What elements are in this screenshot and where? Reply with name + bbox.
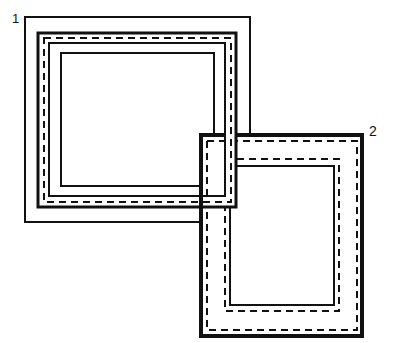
frame-2-opening xyxy=(230,166,334,305)
frames-diagram xyxy=(0,0,402,343)
frame-1-opening xyxy=(61,53,214,186)
frame-1-label: 1 xyxy=(12,12,19,25)
frame-2-overlap-panel xyxy=(201,135,225,196)
frame-2-label: 2 xyxy=(369,124,377,138)
